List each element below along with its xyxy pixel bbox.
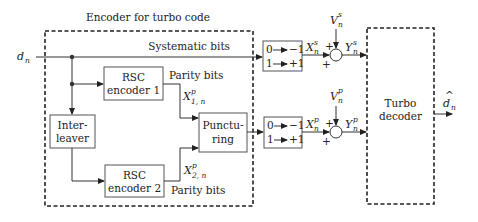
svg-text:1: 1: [266, 57, 273, 69]
svg-text:n: n: [451, 103, 456, 112]
rsc-encoder-2-block: RSC encoder 2: [105, 165, 164, 197]
svg-text:0: 0: [267, 119, 274, 131]
x2p-label: X p 2, n: [183, 161, 207, 180]
yp-label: Y p n: [345, 115, 358, 133]
svg-text:p: p: [191, 87, 196, 96]
svg-text:s: s: [338, 10, 342, 19]
svg-text:p: p: [338, 86, 343, 95]
input-dn-label: d n: [17, 50, 30, 65]
bpsk-mapper-parity: 0 −1 1 +1: [264, 117, 304, 148]
svg-text:+1: +1: [289, 57, 304, 69]
svg-text:1: 1: [267, 133, 274, 145]
rsc-encoder-1-block: RSC encoder 1: [104, 67, 163, 100]
x1p-label: X p 1, n: [182, 87, 206, 106]
svg-text:n: n: [314, 124, 319, 133]
svg-text:RSC: RSC: [123, 169, 146, 181]
svg-text:encoder 1: encoder 1: [107, 84, 160, 96]
turbo-decoder-block: Turbo decoder: [367, 28, 434, 204]
xs-label: X s n: [305, 38, 319, 56]
svg-text:leaver: leaver: [56, 132, 90, 144]
encoder-title: Encoder for turbo code: [86, 11, 210, 23]
vs-label: V s n: [330, 10, 343, 29]
svg-text:p: p: [192, 161, 197, 170]
output-dn-hat-label: ^ d n: [443, 89, 456, 112]
svg-text:d: d: [443, 97, 450, 110]
noise-adder-parity: + +: [322, 106, 342, 147]
turbo-code-diagram: Encoder for turbo code d n Systematic bi…: [0, 0, 478, 222]
svg-text:Punctu-: Punctu-: [202, 119, 243, 131]
interleaver-to-rsc2: [72, 148, 104, 181]
vp-label: V p n: [330, 86, 343, 105]
noise-adder-systematic: + +: [322, 29, 342, 70]
puncturing-block: Punctu- ring: [199, 113, 247, 152]
ys-label: Y s n: [345, 38, 358, 56]
systematic-bits-label: Systematic bits: [148, 40, 230, 52]
svg-text:+: +: [322, 58, 331, 70]
svg-text:ring: ring: [212, 133, 234, 145]
svg-text:encoder 2: encoder 2: [108, 182, 161, 194]
svg-text:Inter-: Inter-: [58, 119, 88, 131]
svg-text:0: 0: [266, 43, 273, 55]
svg-text:n: n: [353, 124, 358, 133]
parity-bits-label-top: Parity bits: [169, 69, 223, 81]
svg-text:n: n: [25, 56, 30, 65]
svg-text:+: +: [325, 117, 334, 129]
svg-text:−1: −1: [289, 43, 304, 55]
bpsk-mapper-systematic: 0 −1 1 +1: [263, 41, 304, 71]
svg-text:s: s: [353, 38, 357, 47]
svg-text:+: +: [325, 40, 334, 52]
svg-text:p: p: [314, 115, 319, 124]
xp-label: X p n: [305, 115, 319, 133]
svg-text:Turbo: Turbo: [385, 97, 417, 109]
svg-text:2, n: 2, n: [191, 171, 207, 180]
svg-text:n: n: [338, 96, 343, 105]
svg-text:n: n: [314, 47, 319, 56]
svg-text:s: s: [314, 38, 318, 47]
svg-text:decoder: decoder: [379, 110, 423, 122]
svg-text:p: p: [353, 115, 358, 124]
svg-text:RSC: RSC: [122, 71, 145, 83]
svg-text:1, n: 1, n: [191, 97, 206, 106]
svg-text:n: n: [338, 20, 343, 29]
svg-text:+1: +1: [289, 133, 304, 145]
svg-text:n: n: [353, 47, 358, 56]
svg-text:d: d: [17, 50, 24, 63]
svg-text:−1: −1: [289, 119, 304, 131]
svg-text:+: +: [322, 135, 331, 147]
interleaver-block: Inter- leaver: [50, 115, 95, 148]
parity-bits-label-bottom: Parity bits: [171, 184, 225, 196]
